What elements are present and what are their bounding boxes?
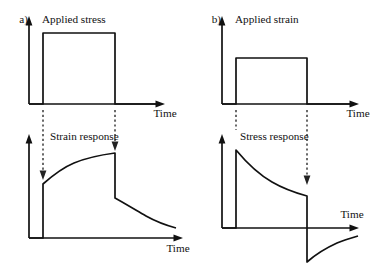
- panel-b-dashed-arrowhead-release: [304, 176, 311, 186]
- diagram-canvas: a) Applied stress Time Strain response T…: [0, 0, 388, 274]
- viscoelastic-response-figure: a) Applied stress Time Strain response T…: [0, 0, 388, 274]
- panel-a-dashed-arrowhead-release: [112, 142, 119, 152]
- panel-b-stress-response-plot: [219, 134, 359, 262]
- panel-a-dashed-arrowhead-onset: [40, 171, 47, 181]
- panel-a-tag: a): [19, 13, 28, 26]
- panel-a-dashed-connectors: [40, 110, 119, 180]
- panel-a-applied-stress-curve: [29, 33, 158, 104]
- panel-a-response-y-axis-arrowhead: [26, 134, 33, 144]
- panel-b-response-x-axis-arrowhead: [350, 225, 360, 232]
- panel-b-response-y-axis-arrowhead: [219, 134, 226, 144]
- panel-b-stress-response-curve: [222, 150, 358, 262]
- panel-b-applied-strain-curve: [222, 58, 352, 104]
- panel-a-response-time-label: Time: [166, 242, 189, 254]
- panel-a-input-time-label: Time: [153, 107, 176, 119]
- panel-b-applied-strain-plot: [219, 16, 359, 107]
- panel-b-tag: b): [212, 13, 222, 26]
- panel-b-response-label: Stress response: [240, 130, 309, 142]
- panel-a-applied-stress-plot: [26, 16, 165, 107]
- panel-b-dashed-connectors: [236, 110, 310, 185]
- panel-b-input-label: Applied strain: [235, 13, 299, 25]
- panel-a-strain-response-plot: [26, 134, 183, 241]
- panel-a-input-label: Applied stress: [42, 13, 106, 25]
- panel-a-response-x-axis-arrowhead: [174, 235, 184, 242]
- panel-b-input-time-label: Time: [346, 107, 369, 119]
- panel-b-response-time-label: Time: [340, 208, 363, 220]
- panel-a-strain-response-curve: [29, 153, 176, 238]
- panel-a-response-label: Strain response: [50, 130, 119, 142]
